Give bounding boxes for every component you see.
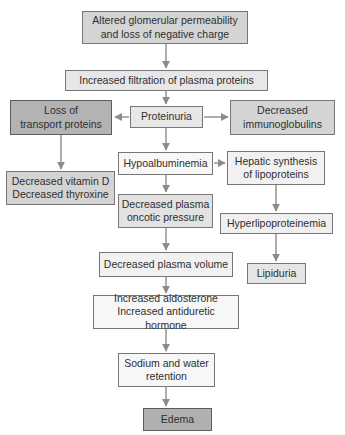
node-hypoalbuminemia: Hypoalbuminemia [118,152,213,175]
node-lipiduria: Lipiduria [247,263,306,284]
node-altered-glomerular-permeability: Altered glomerular permeability and loss… [82,11,248,44]
node-edema: Edema [143,408,212,431]
node-decreased-plasma-volume: Decreased plasma volume [99,252,233,277]
node-hyperlipoproteinemia: Hyperlipoproteinemia [220,213,333,234]
node-increased-aldosterone-adh: Increased aldosterone Increased antidure… [93,295,239,329]
node-decreased-vitamin-d-thyroxine: Decreased vitamin D Decreased thyroxine [6,171,115,205]
node-sodium-and-water-retention: Sodium and water retention [118,353,215,387]
node-decreased-plasma-oncotic-pressure: Decreased plasma oncotic pressure [118,194,213,228]
node-proteinuria: Proteinuria [130,106,203,128]
flowchart-diagram: Altered glomerular permeability and loss… [0,0,345,435]
node-decreased-immunoglobulins: Decreased immunoglobulins [230,100,335,135]
node-hepatic-synthesis-lipoproteins: Hepatic synthesis of lipoproteins [227,151,325,185]
node-increased-filtration: Increased filtration of plasma proteins [65,70,268,91]
node-loss-of-transport-proteins: Loss of transport proteins [10,100,112,135]
